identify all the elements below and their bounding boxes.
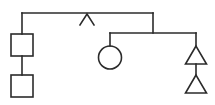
circle-node — [99, 46, 122, 69]
square-node-2 — [11, 75, 33, 97]
triangle-node-1 — [186, 46, 207, 64]
caret-marker-icon — [80, 14, 94, 25]
square-node-1 — [11, 34, 33, 56]
tree-diagram — [0, 0, 215, 105]
triangle-node-2 — [186, 75, 207, 93]
